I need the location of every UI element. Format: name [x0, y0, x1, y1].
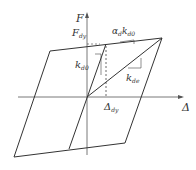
effective-stiffness-label: kde — [126, 73, 139, 84]
yield-displacement-label: Δdy — [104, 102, 118, 113]
initial-stiffness-label: kd0 — [75, 60, 89, 71]
x-axis-arrow-icon — [178, 95, 184, 99]
post-yield-stiffness-label: αdkd0 — [112, 27, 135, 37]
y-axis-label: F — [76, 13, 84, 24]
diagram-canvas — [0, 0, 196, 170]
hysteresis-diagram: F Δ Fdy αdkd0 kd0 kde Δdy — [0, 0, 196, 170]
yield-force-label: Fdy — [72, 28, 86, 39]
y-axis-arrow-icon — [85, 12, 89, 18]
x-axis-label: Δ — [182, 102, 190, 113]
effective-stiffness-line — [87, 38, 162, 97]
